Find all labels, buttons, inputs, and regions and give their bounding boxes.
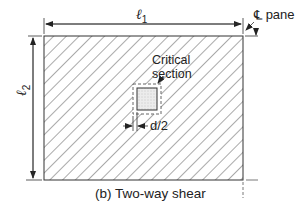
centerline-label: ℄ pane <box>254 8 295 21</box>
centerline-text: pane <box>266 7 295 22</box>
d-over-2-label: d/2 <box>150 119 168 132</box>
centerline-leader <box>243 22 258 198</box>
critical-section-line1: Critical <box>152 53 192 67</box>
l2-subscript: 2 <box>21 85 32 91</box>
figure-caption: (b) Two-way shear <box>95 187 206 201</box>
column <box>137 88 157 110</box>
centerline-icon: ℄ <box>254 7 262 22</box>
l1-label: ℓ1 <box>136 7 147 25</box>
l2-symbol: ℓ <box>13 90 29 96</box>
l1-subscript: 1 <box>142 14 148 25</box>
l2-label: ℓ2 <box>14 85 32 96</box>
dimension-l2 <box>26 36 42 180</box>
critical-section-line2: section <box>152 67 192 81</box>
critical-section-label: Critical section <box>152 53 192 81</box>
